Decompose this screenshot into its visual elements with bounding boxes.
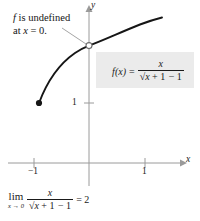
- annotation-line2-suffix: = 0.: [28, 25, 47, 36]
- formula-denominator: √x + 1 − 1: [138, 71, 184, 83]
- annotation-line1-text: is undefined: [16, 12, 70, 23]
- formula-denominator-tail: − 1: [166, 71, 182, 82]
- x-axis-label: x: [186, 154, 190, 164]
- limit-lim-text: lim: [9, 191, 24, 202]
- caption-radicand: x + 1: [33, 199, 55, 211]
- caption-numerator: x: [44, 188, 56, 199]
- formula-fraction: x √x + 1 − 1: [138, 59, 184, 83]
- formula-numerator: x: [155, 59, 167, 70]
- undefined-annotation: f is undefined at x = 0.: [13, 12, 97, 37]
- caption-denominator-tail: − 1: [55, 200, 71, 211]
- limit-graph-figure: f is undefined at x = 0. f(x) = x √x + 1…: [0, 0, 200, 221]
- formula-equals-sign: =: [129, 66, 135, 77]
- open-hole-marker: [86, 43, 92, 49]
- limit-caption: lim x → 0 x √x + 1 − 1 = 2: [8, 188, 89, 212]
- formula-expression: f(x) = x √x + 1 − 1: [102, 56, 194, 86]
- limit-subscript: x → 0: [8, 203, 24, 210]
- caption-radical: √x + 1: [29, 201, 56, 212]
- closed-endpoint-dot: [36, 100, 42, 106]
- formula-radical: √x + 1: [140, 72, 167, 83]
- caption-denominator: √x + 1 − 1: [27, 200, 73, 212]
- x-tick-label-neg1: −1: [28, 166, 38, 176]
- caption-radicand-rest: + 1: [39, 200, 55, 211]
- caption-fraction: x √x + 1 − 1: [27, 188, 73, 212]
- y-tick-label-1: 1: [72, 97, 77, 107]
- limit-operator: lim x → 0: [8, 191, 24, 210]
- formula-radicand-rest: + 1: [150, 71, 166, 82]
- y-axis-label: y: [91, 0, 95, 10]
- x-tick-label-1: 1: [142, 166, 147, 176]
- annotation-line2-prefix: at: [13, 25, 23, 36]
- formula-lhs: f(x): [112, 66, 126, 77]
- caption-result: = 2: [76, 194, 89, 205]
- formula-radicand: x + 1: [144, 70, 166, 82]
